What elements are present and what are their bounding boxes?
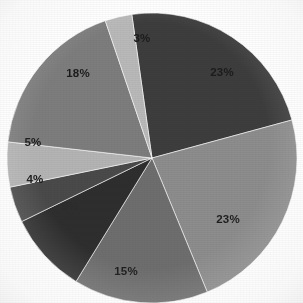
pie-slice-label: 23% (210, 66, 234, 78)
pie-slice-label: 15% (114, 265, 138, 277)
pie-slice-label: 3% (133, 32, 150, 44)
pie-slices-group (7, 13, 297, 303)
pie-slice-label: 9% (61, 200, 78, 212)
pie-slice-label: 5% (24, 136, 41, 148)
pie-slice-label: 4% (26, 173, 43, 185)
pie-chart-figure: 23%23%15%9%4%5%18%3% (0, 0, 303, 303)
pie-slice-label: 23% (216, 213, 240, 225)
pie-slice-label: 18% (66, 67, 90, 79)
pie-chart-canvas: 23%23%15%9%4%5%18%3% (0, 0, 303, 303)
